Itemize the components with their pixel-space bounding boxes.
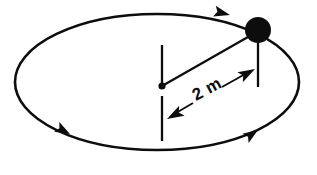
- figure-root: 2 m: [0, 0, 317, 175]
- orbit-diagram-canvas: 2 m: [0, 0, 317, 175]
- orbit-direction-arrow-bottom-right: [242, 125, 261, 143]
- radius-dimension-label: 2 m: [189, 73, 225, 104]
- orbit-direction-arrow-top: [213, 6, 231, 21]
- center-point-dot: [158, 82, 165, 89]
- ball: [245, 17, 271, 43]
- dimension-arrow-right: [237, 64, 257, 82]
- dimension-2m-group: 2 m: [164, 64, 257, 124]
- dimension-arrow-left: [164, 106, 184, 124]
